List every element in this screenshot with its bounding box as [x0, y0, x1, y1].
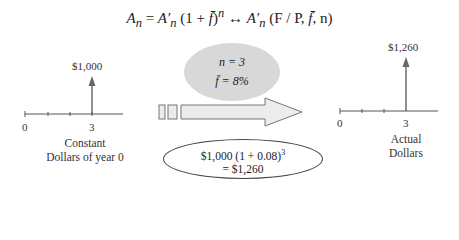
n-parameter: n = 3: [184, 53, 280, 72]
calculation-bubble: $1,000 (1 + 0.08)3 = $1,260: [163, 139, 323, 179]
calculation-line1: $1,000 (1 + 0.08)3: [164, 146, 322, 163]
right-timeline: [340, 64, 438, 114]
left-timeline: [25, 83, 123, 117]
right-tick-3: 3: [403, 117, 409, 129]
left-tick-0: 0: [22, 121, 28, 133]
left-tick-3: 3: [89, 121, 95, 133]
right-caption: Actual Dollars: [366, 132, 446, 160]
inflation-parameter: f̄ = 8%: [184, 72, 280, 91]
left-caption: Constant Dollars of year 0: [20, 136, 150, 164]
right-amount-label: $1,260: [388, 41, 418, 53]
left-amount-label: $1,000: [72, 60, 102, 72]
calculation-result: = $1,260: [164, 163, 322, 176]
conversion-arrow-icon: [159, 98, 302, 126]
right-cashflow-arrow-icon: [403, 57, 410, 67]
left-cashflow-arrow-icon: [89, 76, 96, 86]
right-tick-0: 0: [337, 117, 343, 129]
parameters-bubble: n = 3 f̄ = 8%: [184, 43, 280, 101]
